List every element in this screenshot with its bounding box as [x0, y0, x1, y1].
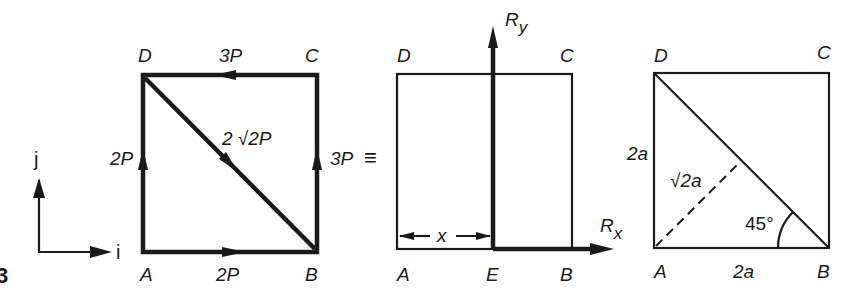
vertex-e-2: E: [486, 264, 499, 285]
arrow-dc-icon: [214, 70, 236, 80]
side-bottom-label: 2a: [732, 261, 754, 282]
arrow-bc-icon: [312, 148, 322, 170]
vertex-d-2: D: [397, 45, 411, 66]
angle-arc: [778, 212, 793, 248]
force-ad-label: 2P: [109, 148, 134, 169]
i-arrow-icon: [90, 246, 112, 258]
j-arrow-icon: [33, 178, 45, 198]
force-db-label: 2 √2P: [221, 128, 272, 149]
dim-arrow-right-icon: [476, 232, 491, 240]
vertex-d: D: [138, 45, 152, 66]
vertex-d-3: D: [654, 45, 668, 66]
side-left-label: 2a: [626, 143, 648, 164]
force-system-diagram: 3 i j D C A B 3P 2P 2P 3P 2 √2P ≡: [0, 0, 865, 291]
figure-number: 3: [0, 263, 8, 288]
angle-label: 45°: [745, 213, 774, 234]
panel-force-square: D C A B 3P 2P 2P 3P 2 √2P: [109, 45, 354, 285]
equivalence-symbol: ≡: [364, 145, 377, 170]
force-bc-label: 3P: [330, 148, 354, 169]
vertex-c: C: [305, 45, 319, 66]
ry-arrow-icon: [488, 26, 498, 48]
ry-label: Ry: [505, 9, 529, 37]
force-ab-label: 2P: [215, 264, 240, 285]
vertex-c-3: C: [817, 42, 831, 63]
vertex-a-2: A: [396, 264, 410, 285]
force-cd-label: 3P: [219, 45, 243, 66]
panel-geometry: D C A B 2a 2a √2a 45°: [626, 42, 831, 282]
arrow-ad-icon: [138, 148, 148, 170]
i-label: i: [116, 241, 120, 263]
dim-arrow-left-icon: [399, 232, 414, 240]
j-label: j: [33, 148, 38, 170]
vertex-b-2: B: [560, 264, 573, 285]
distance-x-label: x: [436, 225, 448, 246]
rx-label: Rx: [600, 215, 623, 243]
unit-vector-axes: i j: [33, 148, 120, 263]
square-abcd-2: [397, 74, 572, 249]
vertex-a-3: A: [653, 261, 667, 282]
rx-arrow-icon: [590, 243, 614, 255]
vertex-a: A: [139, 264, 153, 285]
vertex-b-3: B: [817, 261, 830, 282]
vertex-c-2: C: [560, 45, 574, 66]
perpendicular-label: √2a: [670, 170, 702, 191]
vertex-b: B: [305, 264, 318, 285]
panel-resultant: x D C A E B Ry Rx: [396, 9, 623, 285]
arrow-ab-icon: [222, 247, 246, 257]
